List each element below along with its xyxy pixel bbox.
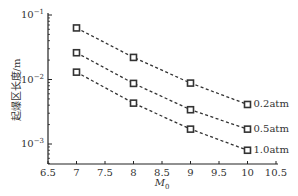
series-label: 0.5atm bbox=[254, 123, 290, 134]
y-tick-label: 10−2 bbox=[21, 73, 44, 85]
data-point-marker bbox=[74, 50, 80, 56]
data-point-marker bbox=[245, 147, 251, 153]
data-point-marker bbox=[74, 69, 80, 75]
x-tick-label: 8 bbox=[130, 167, 136, 178]
x-tick-label: 10 bbox=[241, 167, 254, 178]
series-group: 0.2atm0.5atm1.0atm bbox=[74, 25, 290, 155]
data-point-marker bbox=[245, 101, 251, 107]
x-axis-label: M0 bbox=[154, 177, 170, 191]
series-line-0.5atm bbox=[77, 53, 248, 129]
series-label: 1.0atm bbox=[254, 144, 290, 155]
x-tick-label: 9 bbox=[187, 167, 193, 178]
data-point-marker bbox=[131, 100, 137, 106]
data-point-marker bbox=[74, 25, 80, 31]
chart-canvas: 6.577.588.599.51010.510−110−210−3 0.2atm… bbox=[0, 0, 298, 196]
y-tick-label: 10−1 bbox=[21, 8, 44, 20]
data-point-marker bbox=[245, 126, 251, 132]
x-tick-label: 6.5 bbox=[40, 167, 56, 178]
data-point-marker bbox=[188, 80, 194, 86]
data-point-marker bbox=[131, 54, 137, 60]
data-point-marker bbox=[131, 80, 137, 86]
series-line-1.0atm bbox=[77, 72, 248, 150]
x-tick-label: 7.5 bbox=[97, 167, 113, 178]
y-axis-label: 起爆区长度/m bbox=[10, 58, 22, 121]
x-tick-label: 7 bbox=[73, 167, 79, 178]
y-tick-label: 10−3 bbox=[21, 137, 44, 149]
data-point-marker bbox=[188, 126, 194, 132]
data-point-marker bbox=[188, 107, 194, 113]
series-label: 0.2atm bbox=[254, 98, 290, 109]
x-tick-label: 9.5 bbox=[211, 167, 227, 178]
x-tick-label: 10.5 bbox=[265, 167, 287, 178]
